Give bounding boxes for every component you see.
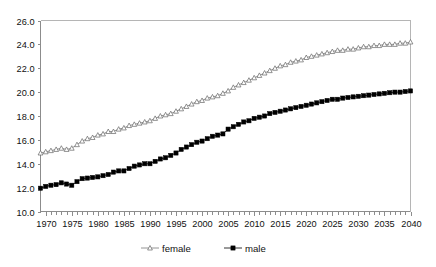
x-tick-label: 2010 xyxy=(244,219,264,229)
data-point-male xyxy=(179,147,183,151)
x-tick-label: 2025 xyxy=(322,219,342,229)
data-point-male xyxy=(388,91,392,95)
data-point-male xyxy=(325,98,329,102)
x-tick-label: 1980 xyxy=(88,219,108,229)
chart-legend: femalemale xyxy=(141,243,266,254)
y-tick-label: 22.0 xyxy=(17,64,35,74)
y-tick-label: 12.0 xyxy=(17,184,35,194)
data-point-male xyxy=(101,174,105,178)
data-point-female xyxy=(179,106,184,111)
data-point-male xyxy=(361,94,365,98)
data-point-male xyxy=(278,109,282,113)
data-point-male xyxy=(137,163,141,167)
data-point-male xyxy=(335,97,339,101)
x-tick-label: 1990 xyxy=(140,219,160,229)
data-point-male xyxy=(283,108,287,112)
data-point-female xyxy=(90,135,95,140)
data-point-male xyxy=(289,107,293,111)
data-point-female xyxy=(69,146,74,151)
legend-label-female: female xyxy=(162,243,191,254)
y-tick-label: 14.0 xyxy=(17,160,35,170)
data-point-male xyxy=(299,104,303,108)
data-point-female xyxy=(153,116,158,121)
data-point-male xyxy=(195,140,199,144)
data-point-female xyxy=(236,82,241,87)
data-point-male xyxy=(309,102,313,106)
chart-canvas: 10.012.014.016.018.020.022.024.026.0 197… xyxy=(0,0,436,267)
data-point-male xyxy=(38,186,42,190)
data-point-female xyxy=(262,71,267,76)
series-path-male xyxy=(41,91,411,188)
data-point-male xyxy=(70,183,74,187)
y-tick-label: 10.0 xyxy=(17,208,35,218)
data-point-male xyxy=(210,134,214,138)
data-point-male xyxy=(315,101,319,105)
data-point-male xyxy=(200,139,204,143)
data-point-male xyxy=(341,96,345,100)
data-point-male xyxy=(190,143,194,147)
data-point-male xyxy=(236,122,240,126)
data-point-female xyxy=(247,78,252,83)
y-tick-label: 26.0 xyxy=(17,17,35,27)
x-tick-label: 2030 xyxy=(348,219,368,229)
data-point-male xyxy=(252,116,256,120)
data-point-male xyxy=(330,97,334,101)
data-point-male xyxy=(257,115,261,119)
data-point-female xyxy=(174,109,179,114)
data-point-male xyxy=(117,169,121,173)
data-point-male xyxy=(346,95,350,99)
data-point-male xyxy=(184,145,188,149)
y-tick-label: 20.0 xyxy=(17,88,35,98)
data-point-male xyxy=(163,156,167,160)
data-point-male xyxy=(148,162,152,166)
x-axis-ticks: 1970197519801985199019952000200520102015… xyxy=(36,212,421,229)
legend-item-female[interactable]: female xyxy=(141,243,191,254)
data-point-female xyxy=(75,142,80,147)
legend-label-male: male xyxy=(245,243,266,254)
data-point-female xyxy=(241,80,246,85)
data-point-female xyxy=(189,102,194,107)
legend-marker-male xyxy=(231,246,235,250)
data-point-male xyxy=(205,137,209,141)
data-point-male xyxy=(408,89,412,93)
data-point-female xyxy=(121,125,126,130)
y-axis-ticks: 10.012.014.016.018.020.022.024.026.0 xyxy=(17,17,41,218)
data-point-male xyxy=(393,90,397,94)
x-tick-label: 1985 xyxy=(114,219,134,229)
data-point-female xyxy=(257,73,262,78)
legend-item-male[interactable]: male xyxy=(224,243,266,254)
data-point-female xyxy=(273,66,278,71)
data-point-female xyxy=(80,139,85,144)
y-tick-label: 16.0 xyxy=(17,136,35,146)
data-point-male xyxy=(59,181,63,185)
data-point-male xyxy=(169,153,173,157)
data-point-female xyxy=(231,85,236,90)
data-point-male xyxy=(242,120,246,124)
x-tick-label: 2040 xyxy=(401,219,421,229)
data-point-male xyxy=(49,183,53,187)
data-point-male xyxy=(111,170,115,174)
data-point-female xyxy=(184,104,189,109)
data-point-male xyxy=(85,176,89,180)
data-point-male xyxy=(268,112,272,116)
data-point-male xyxy=(262,114,266,118)
data-point-male xyxy=(367,93,371,97)
x-tick-label: 2005 xyxy=(218,219,238,229)
data-point-male xyxy=(132,164,136,168)
data-point-male xyxy=(216,133,220,137)
x-tick-label: 2015 xyxy=(270,219,290,229)
data-point-male xyxy=(226,127,230,131)
data-point-female xyxy=(215,93,220,98)
data-point-male xyxy=(106,172,110,176)
data-point-female xyxy=(148,118,153,123)
series-layer xyxy=(38,39,413,190)
data-point-male xyxy=(143,162,147,166)
y-tick-label: 24.0 xyxy=(17,40,35,50)
data-point-male xyxy=(91,175,95,179)
data-point-female xyxy=(226,88,231,93)
y-tick-label: 18.0 xyxy=(17,112,35,122)
data-point-female xyxy=(220,91,225,96)
data-point-male xyxy=(398,90,402,94)
plot-frame xyxy=(41,21,411,212)
data-point-male xyxy=(127,166,131,170)
